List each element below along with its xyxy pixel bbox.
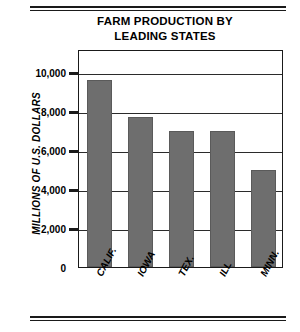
bottom-divider xyxy=(30,316,286,321)
bar xyxy=(210,131,235,267)
bar xyxy=(169,131,194,267)
chart-title-line-2: LEADING STATES xyxy=(60,29,270,44)
y-axis-tick-label: 0 xyxy=(60,263,66,274)
y-axis-tick-mark xyxy=(69,228,78,231)
y-axis-tick-label: 10,000 xyxy=(35,68,66,79)
top-divider xyxy=(30,6,286,11)
y-axis-tick-label: 2,000 xyxy=(41,224,66,235)
y-axis-tick-mark xyxy=(69,111,78,114)
divider-line-thin xyxy=(30,10,286,11)
y-axis-tick-label: 8,000 xyxy=(41,107,66,118)
bar xyxy=(128,117,153,267)
y-axis-tick-mark xyxy=(69,72,78,75)
y-axis-tick-mark xyxy=(69,150,78,153)
bar xyxy=(87,80,112,267)
y-axis-tick-label: 6,000 xyxy=(41,146,66,157)
bar-series xyxy=(79,51,282,267)
y-axis-tick-label: 4,000 xyxy=(41,185,66,196)
y-axis-tick-mark xyxy=(69,189,78,192)
chart-figure: FARM PRODUCTION BY LEADING STATES MILLIO… xyxy=(0,0,300,332)
divider-line-thin xyxy=(30,320,286,321)
chart-title: FARM PRODUCTION BY LEADING STATES xyxy=(60,14,270,44)
chart-title-line-1: FARM PRODUCTION BY xyxy=(60,14,270,29)
plot-area xyxy=(78,50,283,268)
y-axis-title: MILLIONS OF U.S. DOLLARS xyxy=(31,84,42,244)
